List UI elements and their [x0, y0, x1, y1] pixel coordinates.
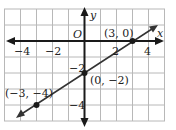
point-label-neg3-neg4: (−3, −4): [5, 87, 53, 100]
origin-label: O: [73, 28, 82, 41]
y-axis-label: y: [89, 9, 97, 22]
x-tick-4: 4: [144, 45, 151, 58]
point-neg3-neg4: [34, 102, 40, 108]
x-axis-left-arrow-icon: [6, 37, 15, 45]
y-axis-down-arrow-icon: [81, 118, 89, 127]
y-axis-up-arrow-icon: [81, 7, 89, 16]
x-tick-2: 2: [112, 45, 119, 58]
y-tick-neg4: −4: [69, 99, 85, 112]
point-label-0-neg2: (0, −2): [90, 74, 129, 87]
x-tick-neg2: −2: [45, 45, 61, 58]
y-tick-neg2: −2: [69, 62, 85, 75]
x-axis-label: x: [157, 27, 164, 40]
point-label-3-0: (3, 0): [104, 27, 134, 40]
line-start-arrow-icon: [16, 110, 25, 119]
coordinate-plane: y x O −4 −2 2 4 −2 −4 (3, 0) (0, −2) (−3…: [0, 0, 176, 130]
x-tick-neg4: −4: [14, 45, 30, 58]
